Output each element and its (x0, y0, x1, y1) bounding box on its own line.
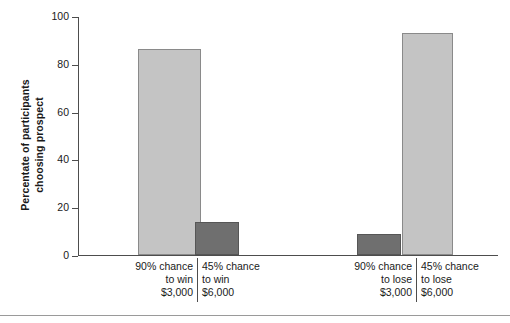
bar-3 (357, 234, 401, 256)
y-axis-tick: 60 (72, 113, 78, 114)
y-axis-tick: 80 (72, 65, 78, 66)
y-axis-tick: 0 (72, 256, 78, 257)
y-axis-tick: 100 (72, 17, 78, 18)
x-axis-label-3-line-2: to lose (319, 273, 412, 286)
y-axis-tick-label: 80 (57, 58, 69, 71)
y-axis-tick-label: 0 (63, 249, 69, 262)
y-axis-tick-label: 100 (51, 10, 69, 23)
x-axis-label-1-line-3: $3,000 (100, 286, 193, 299)
y-axis-tick-label: 40 (57, 153, 69, 166)
bar-4 (402, 33, 453, 255)
bar-chart-figure: Percentate of participants choosing pros… (0, 0, 510, 323)
x-axis-label-1-line-2: to win (100, 273, 193, 286)
bar-1 (138, 49, 201, 255)
y-axis-tick-label: 60 (57, 106, 69, 119)
x-axis-label-2-line-3: $6,000 (202, 286, 290, 299)
y-axis-title-line-1: Percentate of participants (19, 79, 33, 211)
plot-area: 100806040200 (78, 17, 498, 256)
x-axis-line (78, 255, 498, 256)
y-axis-title-line-2: choosing prospect (32, 79, 46, 211)
x-axis-label-3-line-1: 90% chance (319, 260, 412, 273)
y-axis-tick: 40 (72, 160, 78, 161)
x-axis-label-3: 90% chanceto lose$3,000 (319, 258, 416, 302)
x-axis-label-1: 90% chanceto win$3,000 (100, 258, 197, 302)
x-axis-label-3-line-3: $3,000 (319, 286, 412, 299)
x-axis-label-4-line-3: $6,000 (421, 286, 509, 299)
x-axis-label-4-line-2: to lose (421, 273, 509, 286)
x-axis-label-2-line-2: to win (202, 273, 290, 286)
bar-2 (195, 222, 239, 255)
x-axis-label-4-line-1: 45% chance (421, 260, 509, 273)
y-axis-line (78, 17, 79, 256)
y-axis-tick-label: 20 (57, 201, 69, 214)
footer-rule (0, 315, 510, 316)
x-axis-label-4: 45% chanceto lose$6,000 (416, 258, 510, 302)
y-axis-tick: 20 (72, 208, 78, 209)
x-axis-label-2: 45% chanceto win$6,000 (197, 258, 294, 302)
y-axis-title: Percentate of participants choosing pros… (14, 30, 50, 260)
x-axis-label-2-line-1: 45% chance (202, 260, 290, 273)
y-axis-title-text: Percentate of participants choosing pros… (19, 79, 46, 211)
x-axis-label-1-line-1: 90% chance (100, 260, 193, 273)
x-axis-category-labels: 90% chanceto win$3,00045% chanceto win$6… (78, 258, 498, 304)
